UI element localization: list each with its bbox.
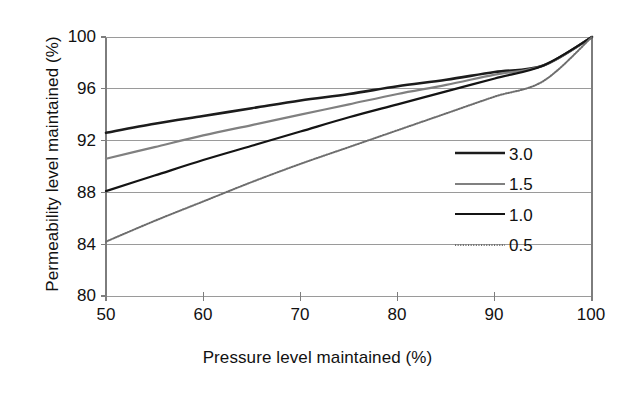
xtick-label-1: 60	[181, 305, 225, 325]
y-axis-title: Permeability level maintained (%)	[43, 36, 63, 292]
xtick-label-3: 80	[375, 305, 419, 325]
legend-label-3-0: 3.0	[509, 145, 533, 165]
chart-figure: 100 96 92 88 84 80 50 60 70 80 90 100 Pr…	[0, 0, 635, 395]
xtick-label-5: 100	[569, 305, 613, 325]
x-axis-title: Pressure level maintained (%)	[0, 348, 635, 368]
legend-label-0-5: 0.5	[509, 236, 533, 256]
legend-label-1-5: 1.5	[509, 175, 533, 195]
series-line-3-0	[106, 37, 592, 133]
xtick-label-0: 50	[84, 305, 128, 325]
gridlines	[106, 37, 592, 296]
xtick-label-2: 70	[278, 305, 322, 325]
axis-lines	[106, 37, 592, 296]
legend-label-1-0: 1.0	[509, 206, 533, 226]
legend-swatches	[455, 153, 505, 245]
series-line-1-0	[106, 37, 592, 191]
xtick-label-4: 90	[472, 305, 516, 325]
y-axis-title-wrapper: Permeability level maintained (%)	[43, 0, 67, 329]
